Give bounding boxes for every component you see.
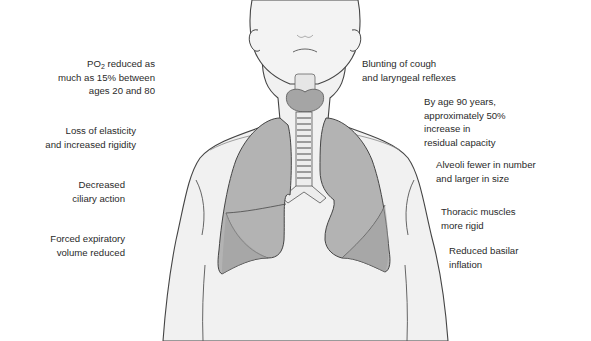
- label-forced-expiratory-volume: Forced expiratory volume reduced: [50, 232, 125, 259]
- label-residual-capacity: By age 90 years, approximately 50% incre…: [424, 95, 506, 149]
- fev-line-1: Forced expiratory: [50, 232, 125, 246]
- label-reduced-basilar-inflation: Reduced basilar inflation: [449, 244, 518, 271]
- residual-line-4: residual capacity: [424, 136, 506, 150]
- respiratory-aging-diagram: PO2 reduced as much as 15% between ages …: [0, 0, 591, 341]
- alveoli-line-2: and larger in size: [436, 172, 536, 186]
- label-decreased-ciliary-action: Decreased ciliary action: [72, 178, 125, 205]
- po2-line-1: reduced as: [108, 58, 155, 69]
- po2-symbol: PO: [87, 58, 101, 69]
- label-loss-of-elasticity: Loss of elasticity and increased rigidit…: [45, 124, 136, 151]
- po2-line-3: ages 20 and 80: [58, 84, 155, 98]
- residual-line-1: By age 90 years,: [424, 95, 506, 109]
- label-alveoli-fewer: Alveoli fewer in number and larger in si…: [436, 158, 536, 185]
- residual-line-3: increase in: [424, 122, 506, 136]
- elasticity-line-2: and increased rigidity: [45, 138, 136, 152]
- elasticity-line-1: Loss of elasticity: [45, 124, 136, 138]
- label-thoracic-muscles: Thoracic muscles more rigid: [441, 205, 516, 232]
- basilar-line-1: Reduced basilar: [449, 244, 518, 258]
- fev-line-2: volume reduced: [50, 246, 125, 260]
- po2-subscript: 2: [101, 63, 105, 70]
- cough-line-2: and laryngeal reflexes: [362, 71, 456, 85]
- residual-line-2: approximately 50%: [424, 109, 506, 123]
- ciliary-line-1: Decreased: [72, 178, 125, 192]
- thoracic-line-1: Thoracic muscles: [441, 205, 516, 219]
- basilar-line-2: inflation: [449, 258, 518, 272]
- label-po2-reduced: PO2 reduced as much as 15% between ages …: [58, 57, 155, 98]
- alveoli-line-1: Alveoli fewer in number: [436, 158, 536, 172]
- thoracic-line-2: more rigid: [441, 219, 516, 233]
- po2-line-2: much as 15% between: [58, 71, 155, 85]
- ciliary-line-2: ciliary action: [72, 192, 125, 206]
- label-blunting-of-cough: Blunting of cough and laryngeal reflexes: [362, 57, 456, 84]
- cough-line-1: Blunting of cough: [362, 57, 456, 71]
